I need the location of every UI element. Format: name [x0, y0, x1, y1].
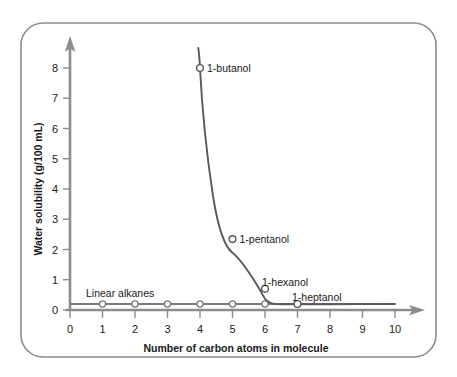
y-tick-label-1: 1 [52, 274, 58, 286]
y-axis-title: Water solubility (g/100 mL) [32, 122, 44, 255]
x-tick-label-9: 9 [359, 323, 365, 335]
x-axis-title: Number of carbon atoms in molecule [144, 342, 329, 354]
y-tick-label-8: 8 [52, 62, 58, 74]
x-tick-label-1: 1 [99, 323, 105, 335]
x-tick-label-6: 6 [262, 323, 268, 335]
label-1-heptanol: 1-heptanol [292, 291, 342, 303]
alkane-marker-1 [99, 301, 105, 307]
y-tick-labels: 8 7 6 5 4 3 2 1 0 [52, 62, 58, 316]
alkane-marker-4 [197, 301, 203, 307]
y-tick-label-6: 6 [52, 123, 58, 135]
x-tick-label-5: 5 [229, 323, 235, 335]
x-tick-label-8: 8 [327, 323, 333, 335]
label-1-hexanol: 1-hexanol [262, 276, 308, 288]
marker-1-butanol [197, 65, 204, 72]
x-tick-label-4: 4 [197, 323, 203, 335]
y-tick-label-3: 3 [52, 213, 58, 225]
alkane-marker-2 [132, 301, 138, 307]
linear-alkanes-label: Linear alkanes [86, 287, 154, 299]
marker-1-pentanol [229, 236, 236, 243]
alkane-marker-3 [164, 301, 170, 307]
y-tick-label-7: 7 [52, 92, 58, 104]
alkane-marker-5 [229, 301, 235, 307]
water-solubility-chart: 8 7 6 5 4 3 2 1 0 0 1 2 3 4 5 6 7 8 9 10 [0, 0, 457, 377]
y-tick-label-2: 2 [52, 244, 58, 256]
y-tick-label-4: 4 [52, 183, 58, 195]
label-1-butanol: 1-butanol [207, 62, 251, 74]
y-tick-label-0: 0 [52, 304, 58, 316]
x-tick-label-7: 7 [294, 323, 300, 335]
x-tick-label-2: 2 [132, 323, 138, 335]
y-tick-label-5: 5 [52, 153, 58, 165]
x-tick-label-3: 3 [164, 323, 170, 335]
x-tick-label-10: 10 [389, 323, 401, 335]
label-1-pentanol: 1-pentanol [240, 233, 290, 245]
x-tick-label-0: 0 [67, 323, 73, 335]
